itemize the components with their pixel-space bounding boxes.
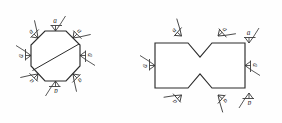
figure-notched-rectangle-part: a a a xyxy=(140,19,260,113)
finish-symbol-rect-left-edge: a xyxy=(140,56,155,71)
finish-symbol-rect-top-left-notch: a xyxy=(167,19,188,40)
notched-rectangle-outline xyxy=(155,43,245,88)
finish-symbol-rect-top-right-notch: a xyxy=(215,22,236,43)
figure-octagon-part: a a a xyxy=(16,16,95,96)
technical-drawing: a a a xyxy=(0,0,282,123)
finish-symbol-octagon-left: a xyxy=(16,46,31,61)
finish-label: a xyxy=(17,54,25,58)
finish-label: a xyxy=(247,29,251,37)
finish-symbol-octagon-right: a xyxy=(80,51,95,66)
finish-symbol-octagon-bottom: a xyxy=(46,81,61,96)
finish-label: a xyxy=(86,53,94,57)
finish-symbol-rect-top-right-edge: a xyxy=(244,28,259,43)
finish-label: a xyxy=(54,87,58,95)
finish-label: a xyxy=(53,17,57,25)
finish-label: a xyxy=(141,64,149,68)
drawing-canvas: a a a xyxy=(0,0,282,123)
finish-label: a xyxy=(251,63,259,67)
finish-symbol-octagon-top: a xyxy=(51,16,66,31)
finish-symbol-rect-right-edge: a xyxy=(245,61,260,76)
finish-symbol-rect-bottom-right-notch: a xyxy=(211,91,232,112)
finish-symbol-rect-bottom-right-edge: a xyxy=(239,93,254,108)
finish-label: a xyxy=(247,99,251,107)
octagon-outline xyxy=(31,31,80,81)
finish-symbol-rect-bottom-left-notch: a xyxy=(164,87,185,108)
